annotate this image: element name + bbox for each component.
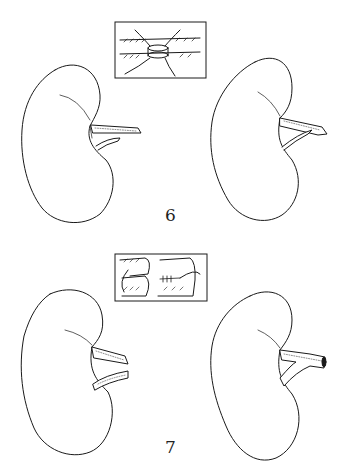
inset-figure-6 [115, 22, 206, 78]
kidney-6-right [211, 58, 327, 220]
inset-figure-7 [115, 254, 207, 301]
illustration [0, 0, 347, 475]
kidney-7-left [21, 290, 128, 455]
figure-label-7: 7 [165, 437, 176, 457]
kidney-7-right [211, 292, 326, 460]
kidney-6-left [22, 65, 141, 223]
figure-label-6: 6 [165, 205, 176, 225]
